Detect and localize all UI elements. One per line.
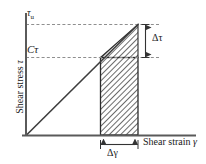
y-axis-label: Shear stress τ: [15, 41, 25, 133]
tau-ultimate-label: τu: [27, 8, 34, 21]
delta-tau-label: Δτ: [152, 33, 162, 43]
hatched-rectangle-region: [101, 58, 139, 136]
y-axis-label-symbol: τ: [14, 60, 25, 64]
delta-gamma-label: Δγ: [107, 148, 118, 158]
x-axis-label-symbol: γ: [193, 136, 197, 147]
shear-stress-strain-figure: τu Cτ Δτ Δγ Shear strain γ Shear stress …: [0, 0, 206, 164]
tau-ultimate-subscript: u: [31, 13, 35, 21]
x-axis-label: Shear strain γ: [143, 137, 197, 147]
c-tau-label: Cτ: [27, 44, 38, 55]
y-axis-label-text: Shear stress: [14, 66, 25, 114]
x-axis-label-text: Shear strain: [143, 136, 191, 147]
